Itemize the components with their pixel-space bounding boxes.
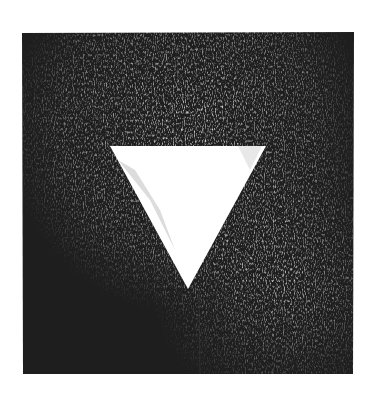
print-canvas	[0, 0, 379, 399]
